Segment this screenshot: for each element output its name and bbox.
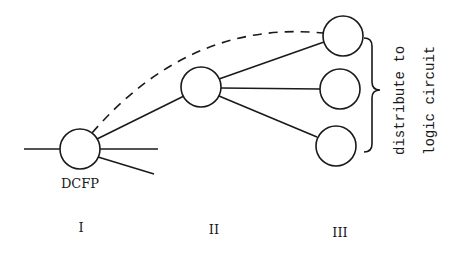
node-dcfp <box>60 129 100 169</box>
node-stage3a <box>323 16 363 56</box>
annotation-line-1: distribute to <box>392 46 408 155</box>
edge-stage2-to-3c <box>219 96 317 137</box>
fanout-tree-diagram: DCFP I II III distribute to logic circui… <box>0 0 456 256</box>
edge-stage2-to-3b <box>221 88 320 89</box>
stage-label-ii: II <box>209 222 219 237</box>
node-stage2 <box>181 67 221 107</box>
curly-brace <box>364 38 380 152</box>
node-stage3b <box>320 69 360 109</box>
stage-label-iii: III <box>332 225 347 240</box>
node-stage3c <box>316 126 356 166</box>
edge-dcfp-to-stage2 <box>97 96 184 139</box>
edge-dcfp-out-down <box>98 157 154 174</box>
stage-label-i: I <box>78 220 83 235</box>
dcfp-label: DCFP <box>61 176 99 191</box>
edge-stage2-to-3a <box>219 42 324 79</box>
annotation-line-2: logic circuit <box>422 46 438 155</box>
